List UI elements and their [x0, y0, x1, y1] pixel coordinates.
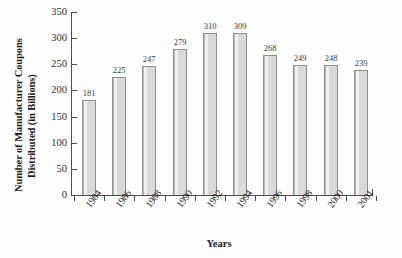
- x-axis-tick: [165, 196, 166, 201]
- x-axis-tick: [255, 196, 256, 201]
- bar-value-label: 239: [347, 59, 375, 68]
- y-axis-tick: [72, 64, 77, 65]
- y-axis-top-tick: [71, 12, 77, 13]
- bar: [82, 100, 96, 195]
- x-axis-title-text: Years: [206, 238, 231, 249]
- x-axis-tick: [225, 196, 226, 201]
- bar: [203, 33, 217, 195]
- x-axis-tick: [195, 196, 196, 201]
- y-axis-tick: [72, 143, 77, 144]
- x-axis-tick: [285, 196, 286, 201]
- y-axis-tick-label: 150: [37, 112, 67, 123]
- x-axis-tick: [134, 196, 135, 201]
- y-axis-tick-label: 100: [37, 138, 67, 149]
- x-axis-tick: [346, 196, 347, 201]
- y-axis-tick-labels: 050100150200250300350: [33, 12, 67, 195]
- bar-value-label: 247: [135, 55, 163, 64]
- plot-area: 181225247279310309268249248239 198419861…: [71, 12, 373, 195]
- bar: [324, 65, 338, 195]
- y-axis-tick-label: 200: [37, 85, 67, 96]
- bar-chart: Number of Manufacturer Coupons Distribut…: [0, 0, 402, 258]
- y-axis-tick-label: 300: [37, 33, 67, 44]
- y-axis-tick: [72, 169, 77, 170]
- bar-value-label: 279: [166, 38, 194, 47]
- y-axis-tick-label: 0: [37, 190, 67, 201]
- bar: [263, 55, 277, 195]
- bar-value-label: 225: [105, 66, 133, 75]
- x-axis-tick: [316, 196, 317, 201]
- x-axis-title: Years: [0, 238, 402, 249]
- y-axis-tick: [72, 117, 77, 118]
- y-axis-tick: [72, 38, 77, 39]
- y-axis-tick-label: 250: [37, 59, 67, 70]
- x-axis-tick: [376, 196, 377, 201]
- y-axis-title-line-1: Number of Manufacturer Coupons: [13, 38, 24, 192]
- x-axis-tick: [74, 196, 75, 201]
- bar-value-label: 181: [75, 89, 103, 98]
- bar-value-label: 248: [317, 54, 345, 63]
- y-axis-tick-label: 350: [37, 7, 67, 18]
- x-axis-tick: [104, 196, 105, 201]
- bar: [233, 33, 247, 195]
- y-axis-tick-label: 50: [37, 164, 67, 175]
- bar: [112, 77, 126, 195]
- bar: [354, 70, 368, 195]
- bar: [173, 49, 187, 195]
- bar-value-label: 310: [196, 22, 224, 31]
- y-axis-line: [71, 12, 72, 195]
- bar-value-label: 249: [286, 54, 314, 63]
- bar: [293, 65, 307, 195]
- bar: [142, 66, 156, 195]
- bar-value-label: 268: [256, 44, 284, 53]
- bar-value-label: 309: [226, 22, 254, 31]
